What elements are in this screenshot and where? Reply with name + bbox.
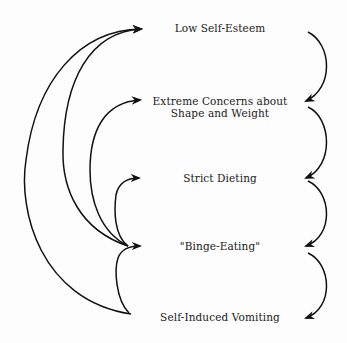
arrow-concerns-to-dieting [306,107,327,178]
arrow-binge-to-dieting [115,178,139,246]
node-self-induced-vomiting: Self-Induced Vomiting [138,311,302,323]
node-extreme-concerns-line2: Shape and Weight [138,107,302,119]
node-binge-eating: "Binge-Eating" [138,240,302,252]
node-strict-dieting: Strict Dieting [138,172,302,184]
diagram-canvas: Low Self-Esteem Extreme Concerns about S… [0,0,347,343]
arrow-vomiting-to-low [24,29,141,314]
arrow-low-to-concerns [306,32,327,101]
node-low-self-esteem: Low Self-Esteem [138,22,302,34]
arrow-vomiting-to-binge [116,246,140,313]
arrow-binge-to-concerns [90,100,140,246]
node-extreme-concerns-line1: Extreme Concerns about [138,95,302,107]
arrow-dieting-to-binge [306,181,327,246]
arrow-binge-to-vomiting [306,253,327,318]
arrow-binge-to-low [63,29,141,246]
